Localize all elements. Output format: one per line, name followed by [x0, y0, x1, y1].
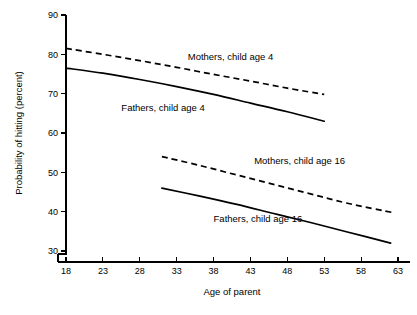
series-label-fathers-child-age-4: Fathers, child age 4 [121, 102, 204, 113]
y-tick-label-70: 70 [48, 89, 58, 99]
y-axis-title: Probability of hitting (percent) [13, 71, 24, 195]
x-tick-label-43: 43 [245, 266, 255, 276]
x-tick-label-23: 23 [98, 266, 108, 276]
x-tick-label-58: 58 [356, 266, 366, 276]
x-tick-label-38: 38 [209, 266, 219, 276]
y-tick-label-40: 40 [48, 207, 58, 217]
x-tick-label-33: 33 [172, 266, 182, 276]
x-tick-label-48: 48 [282, 266, 292, 276]
y-axis-spine [58, 15, 66, 254]
y-tick-label-80: 80 [48, 50, 58, 60]
series-label-fathers-child-age-16: Fathers, child age 16 [214, 213, 303, 224]
tick-labels-group: 3040506070809018232833384348535863 [48, 10, 403, 276]
x-tick-label-18: 18 [61, 266, 71, 276]
y-tick-label-60: 60 [48, 128, 58, 138]
line-chart: 3040506070809018232833384348535863 Mothe… [0, 0, 417, 315]
x-axis-title: Age of parent [203, 286, 260, 297]
x-tick-label-63: 63 [393, 266, 403, 276]
y-tick-label-50: 50 [48, 168, 58, 178]
x-tick-label-53: 53 [319, 266, 329, 276]
x-tick-label-28: 28 [135, 266, 145, 276]
y-tick-label-30: 30 [48, 246, 58, 256]
y-tick-label-90: 90 [48, 10, 58, 20]
series-labels-group: Mothers, child age 4Fathers, child age 4… [121, 51, 345, 223]
series-label-mothers-child-age-16: Mothers, child age 16 [254, 155, 345, 166]
chart-figure: 3040506070809018232833384348535863 Mothe… [0, 0, 417, 315]
series-label-mothers-child-age-4: Mothers, child age 4 [188, 51, 274, 62]
